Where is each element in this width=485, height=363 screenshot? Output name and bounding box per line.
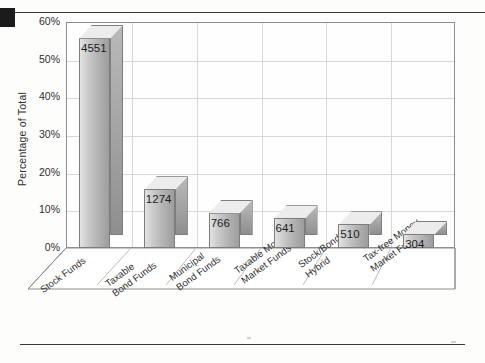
bar-value-label: 641 [276, 222, 295, 234]
bar-series: 30451064176612744551 [0, 0, 485, 363]
bar-value-label: 1274 [146, 193, 172, 205]
bar-5[interactable]: 510 [338, 224, 369, 248]
bar-value-label: 304 [405, 238, 424, 250]
scanned-page: Percentage of Total 0%10%20%30%40%50%60%… [0, 0, 485, 363]
bar-1[interactable]: 4551 [79, 38, 110, 248]
bar-value-label: 4551 [81, 42, 107, 54]
bar-2[interactable]: 1274 [144, 189, 175, 248]
bar-6[interactable]: 304 [403, 234, 434, 248]
bar-4[interactable]: 641 [274, 218, 305, 248]
bar-front-face [79, 38, 110, 248]
bar-value-label: 510 [340, 228, 359, 240]
bar-value-label: 766 [211, 217, 230, 229]
bar-chart-3d: Percentage of Total 0%10%20%30%40%50%60%… [0, 0, 485, 363]
bar-3[interactable]: 766 [209, 213, 240, 248]
bar-side-face [110, 25, 123, 235]
